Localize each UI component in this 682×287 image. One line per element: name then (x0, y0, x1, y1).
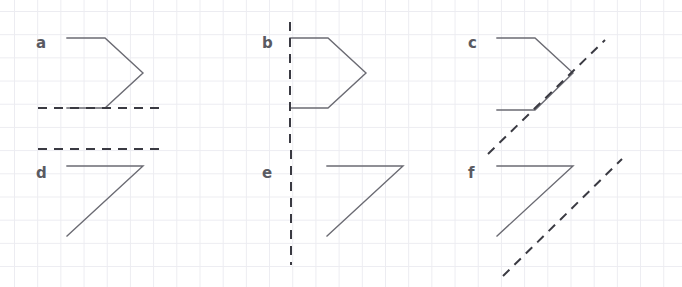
figure-b (290, 22, 366, 148)
mirror-line-c (488, 40, 605, 154)
figure-label-f: f (468, 166, 475, 181)
shape-c-pentagon (497, 38, 573, 110)
figure-a (38, 38, 165, 108)
figure-label-a: a (36, 36, 46, 51)
shape-f-triangle (497, 166, 573, 236)
worksheet-canvas: a b c d e f (0, 0, 682, 287)
shape-a-pentagon (67, 38, 143, 108)
figure-label-e: e (262, 166, 272, 181)
shape-d-triangle (67, 166, 143, 236)
figure-label-b: b (262, 36, 273, 51)
figures-layer (0, 0, 682, 287)
figure-f (497, 159, 622, 276)
shape-e-triangle (327, 166, 403, 236)
figure-label-d: d (36, 166, 47, 181)
figure-c (488, 38, 605, 154)
figure-d (38, 149, 165, 236)
figure-e (291, 150, 403, 265)
shape-b-pentagon (290, 38, 366, 108)
figure-label-c: c (468, 36, 477, 51)
